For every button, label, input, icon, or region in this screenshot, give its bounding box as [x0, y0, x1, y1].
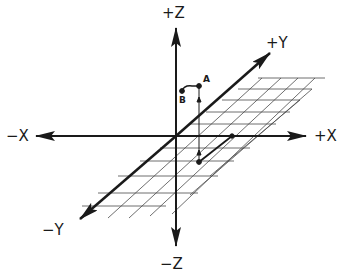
label-pos-x: +X	[314, 129, 337, 144]
label-neg-y: −Y	[42, 223, 64, 238]
xy-plane-grid	[82, 78, 325, 218]
label-pos-y: +Y	[266, 36, 288, 51]
axes	[36, 28, 306, 246]
point-b-dot	[180, 89, 185, 94]
y-axis-negative	[80, 136, 176, 219]
label-point-b: B	[179, 96, 186, 105]
label-pos-z: +Z	[162, 6, 185, 21]
label-neg-x: −X	[6, 129, 29, 144]
x-axis-dot	[230, 134, 234, 138]
projection-dot	[197, 160, 202, 165]
label-point-a: A	[203, 75, 210, 84]
y-axis-positive	[176, 53, 270, 136]
point-a-dot	[197, 84, 202, 89]
label-neg-z: −Z	[160, 257, 183, 272]
